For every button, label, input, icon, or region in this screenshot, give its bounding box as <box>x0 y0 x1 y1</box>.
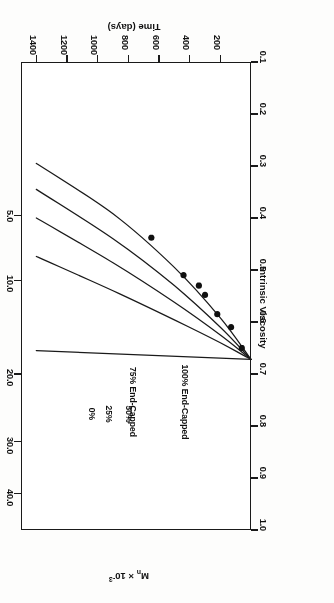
curve-75-end-capped <box>36 256 251 359</box>
y-tick-label-0.2: 0.2 <box>258 93 268 115</box>
x-tick-600 <box>158 55 159 62</box>
figure-canvas: 100% End-Capped 75% End-Capped 50% 25% 0… <box>0 0 334 603</box>
x-tick-1400 <box>36 55 37 62</box>
data-point-marker <box>214 311 220 317</box>
mn-tick-label-30.0: 30.0 <box>5 437 15 467</box>
mn-tick-label-40.0: 40.0 <box>5 489 15 519</box>
curve-label-50: 50% <box>124 405 134 422</box>
mn-tick-label-20.0: 20.0 <box>5 369 15 399</box>
y-axis-title: Intrinsic Viscosity <box>259 248 270 368</box>
x-tick-label-400: 400 <box>181 35 191 50</box>
x-tick-label-800: 800 <box>120 35 130 50</box>
x-tick-label-200: 200 <box>212 35 222 50</box>
curves-layer <box>21 62 251 530</box>
y-tick-label-0.8: 0.8 <box>258 405 268 427</box>
mn-symbol: M <box>141 571 149 582</box>
x-tick-200 <box>220 55 221 62</box>
rotated-plot-wrapper: 100% End-Capped 75% End-Capped 50% 25% 0… <box>0 0 334 603</box>
x-tick-800 <box>128 55 129 62</box>
mn-tick-label-10.0: 10.0 <box>5 275 15 305</box>
mn-exponent: -3 <box>109 576 115 583</box>
mn-tick-40.0 <box>14 493 21 494</box>
mn-tick-20.0 <box>14 373 21 374</box>
y-tick-0.6 <box>251 321 258 322</box>
mn-base: 10 <box>115 571 126 582</box>
curve-label-100: 100% End-Capped <box>180 365 190 440</box>
data-point-marker <box>202 292 208 298</box>
mn-tick-10.0 <box>14 280 21 281</box>
y-tick-label-0.3: 0.3 <box>258 145 268 167</box>
data-point-marker <box>228 324 234 330</box>
y-tick-label-0.4: 0.4 <box>258 197 268 219</box>
x-tick-label-1200: 1200 <box>59 35 69 55</box>
curve-label-25: 25% <box>104 405 114 422</box>
data-point-marker <box>239 345 245 351</box>
y-tick-0.9 <box>251 477 258 478</box>
y-tick-label-1.0: 1.0 <box>258 509 268 531</box>
x-tick-400 <box>189 55 190 62</box>
x-tick-label-600: 600 <box>151 35 161 50</box>
secondary-axis-title: Mn × 10-3 <box>74 569 184 583</box>
y-tick-1.0 <box>251 529 258 530</box>
y-tick-label-0.9: 0.9 <box>258 457 268 479</box>
y-tick-0.4 <box>251 217 258 218</box>
curve-label-75: 75% End-Capped <box>128 367 138 437</box>
y-tick-0.1 <box>251 61 258 62</box>
mn-tick-30.0 <box>14 441 21 442</box>
data-point-marker <box>196 283 202 289</box>
x-tick-label-1000: 1000 <box>89 35 99 55</box>
y-tick-0.5 <box>251 269 258 270</box>
curve-100-end-capped <box>36 351 251 360</box>
y-tick-0.3 <box>251 165 258 166</box>
data-point-marker <box>180 272 186 278</box>
y-tick-0.7 <box>251 373 258 374</box>
data-point-marker <box>148 235 154 241</box>
mn-times: × <box>126 571 137 582</box>
y-tick-label-0.1: 0.1 <box>258 41 268 63</box>
x-axis-title: Time (days) <box>94 22 174 33</box>
mn-tick-5.0 <box>14 215 21 216</box>
curve-label-0: 0% <box>87 408 97 420</box>
mn-tick-label-5.0: 5.0 <box>5 210 15 240</box>
x-tick-label-1400: 1400 <box>28 35 38 55</box>
mn-subscript: n <box>137 569 141 576</box>
x-tick-1200 <box>66 55 67 62</box>
y-tick-0.2 <box>251 113 258 114</box>
x-tick-1000 <box>97 55 98 62</box>
y-tick-0.8 <box>251 425 258 426</box>
